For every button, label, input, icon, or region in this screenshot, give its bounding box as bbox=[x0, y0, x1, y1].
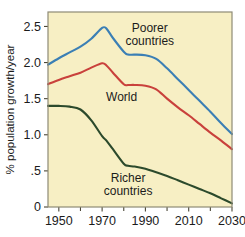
series-annotation-line: World bbox=[106, 90, 137, 104]
x-tick-label: 2030 bbox=[218, 214, 245, 228]
population-growth-chart: 0.51.01.52.02.519501970199020102030Poore… bbox=[0, 0, 245, 237]
x-tick-label: 2010 bbox=[175, 214, 203, 228]
chart-canvas: 0.51.01.52.02.519501970199020102030Poore… bbox=[0, 0, 245, 237]
series-annotation-0: Poorercountries bbox=[125, 21, 174, 48]
x-tick-label: 1970 bbox=[88, 214, 116, 228]
x-tick-label: 1990 bbox=[132, 214, 160, 228]
series-annotation-1: World bbox=[106, 90, 137, 104]
y-tick-label: .5 bbox=[31, 164, 41, 178]
series-annotation-line: Richer bbox=[111, 171, 146, 185]
y-tick-label: 1.5 bbox=[24, 92, 41, 106]
y-tick-label: 2.0 bbox=[24, 56, 41, 70]
series-annotation-line: countries bbox=[125, 34, 174, 48]
y-tick-label: 2.5 bbox=[24, 20, 41, 34]
y-tick-label: 0 bbox=[34, 200, 41, 214]
series-annotation-line: countries bbox=[104, 184, 153, 198]
y-axis-title: % population growth/year bbox=[4, 44, 16, 174]
series-annotation-2: Richercountries bbox=[104, 171, 153, 198]
y-tick-label: 1.0 bbox=[24, 128, 41, 142]
x-tick-label: 1950 bbox=[45, 214, 73, 228]
series-annotation-line: Poorer bbox=[132, 21, 168, 35]
